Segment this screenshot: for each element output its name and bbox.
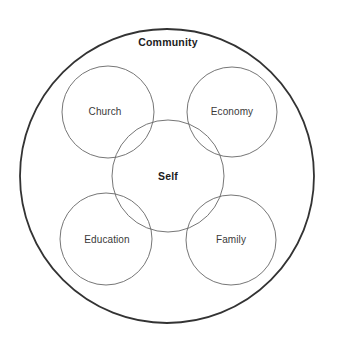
venn-diagram-canvas: Community Church Economy Self Education … — [0, 0, 338, 356]
church-label: Church — [89, 106, 122, 117]
venn-diagram: Community Church Economy Self Education … — [0, 0, 338, 356]
education-label: Education — [84, 234, 129, 245]
self-label: Self — [158, 170, 178, 182]
economy-label: Economy — [211, 106, 253, 117]
family-label: Family — [216, 234, 246, 245]
community-label: Community — [138, 36, 198, 48]
